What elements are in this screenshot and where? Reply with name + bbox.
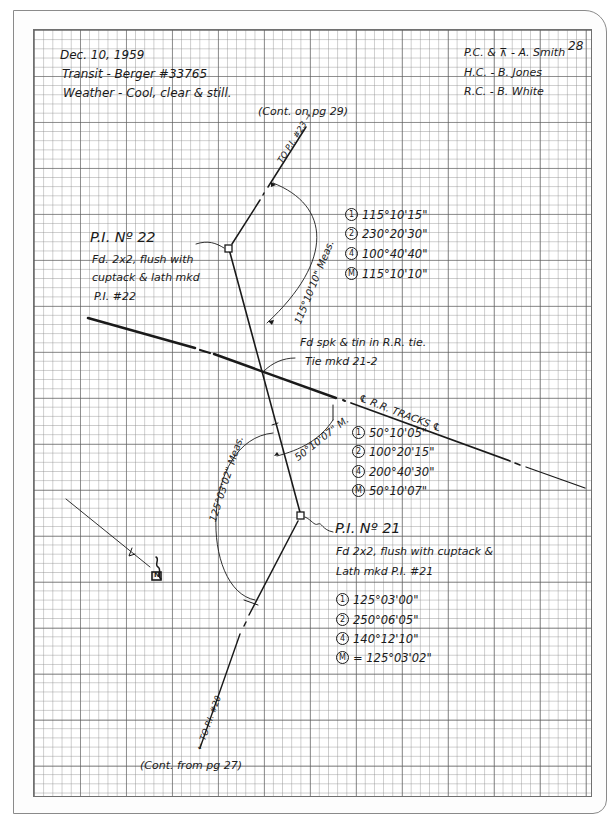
pi22-obs-mean: M115°10'10" xyxy=(345,266,427,281)
crew-party-chief: P.C. & ⊼ - A. Smith xyxy=(464,47,565,58)
pi21-obs-4: 4140°12'10" xyxy=(336,631,418,646)
tie-obs-2: 2100°20'15" xyxy=(352,444,434,459)
tie-note-2: Tie mkd 21-2 xyxy=(305,356,378,367)
tie-note-1: Fd spk & tin in R.R. tie. xyxy=(300,337,426,348)
survey-date: Dec. 10, 1959 xyxy=(60,49,144,61)
pi21-desc-2: Lath mkd P.I. #21 xyxy=(336,566,433,577)
tie-obs-mean: M50°10'07" xyxy=(352,483,427,498)
pi21-obs-1: 1125°03'00" xyxy=(336,592,418,607)
pi22-desc-1: Fd. 2x2, flush with xyxy=(92,254,193,265)
pi21-title: P.I. Nº 21 xyxy=(335,521,401,536)
pi22-title: P.I. Nº 22 xyxy=(90,230,156,245)
instrument-note: Transit - Berger #33765 xyxy=(62,68,207,80)
rr-line-left xyxy=(88,318,195,348)
pi22-obs-2: 2230°20'30" xyxy=(345,226,427,241)
pi21-desc-1: Fd 2x2, flush with cuptack & xyxy=(336,546,493,557)
page-number: 28 xyxy=(568,40,583,52)
tie-obs-4: 4200°40'30" xyxy=(352,464,434,479)
pi21-stake xyxy=(297,512,304,519)
pi21-obs-2: 2250°06'05" xyxy=(336,612,418,627)
pi21-angle-arc xyxy=(216,433,273,600)
pi22-desc-3: P.I. #22 xyxy=(94,291,136,302)
continued-from-note: (Cont. from pg 27) xyxy=(140,760,242,771)
pi22-stake xyxy=(225,245,232,252)
crew-rear-chain: R.C. - B. White xyxy=(464,86,544,97)
pi22-desc-2: cuptack & lath mkd xyxy=(92,272,200,283)
pi22-obs-4: 4100°40'40" xyxy=(345,246,427,261)
north-arrow-icon: N xyxy=(154,572,160,579)
crew-head-chain: H.C. - B. Jones xyxy=(464,67,542,78)
tie-obs-1: 150°10'05" xyxy=(352,425,427,440)
north-arrow-line xyxy=(66,499,150,567)
pi21-obs-mean: M= 125°03'02" xyxy=(336,650,432,665)
pi22-obs-1: 1115°10'15" xyxy=(345,207,427,222)
weather-note: Weather - Cool, clear & still. xyxy=(63,87,232,99)
